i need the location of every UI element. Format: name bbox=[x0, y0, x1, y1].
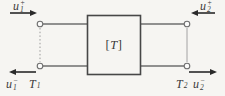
label-t2-base: T bbox=[176, 78, 183, 90]
label-t1: T 1 bbox=[29, 78, 40, 90]
label-u1-plus-base: u bbox=[13, 0, 19, 12]
arrow-reflected-port1-head bbox=[9, 69, 16, 75]
label-t2: T 2 bbox=[176, 78, 187, 90]
arrow-reflected-port2-head bbox=[210, 69, 217, 75]
network-box-label: [ T ] bbox=[87, 15, 141, 75]
label-t2-sub: 2 bbox=[184, 82, 188, 89]
label-u2-plus-sub: 2 bbox=[207, 6, 211, 13]
arrow-incident-port1-head bbox=[30, 10, 37, 16]
arrow-reflected-port1 bbox=[9, 69, 36, 75]
terminal-top-right bbox=[184, 21, 190, 27]
label-u1-plus-scripts: + 1 bbox=[20, 0, 25, 13]
label-u2-plus-scripts: + 2 bbox=[207, 0, 212, 13]
label-u2-minus-base: u bbox=[193, 78, 199, 90]
two-port-network-diagram: [ T ] u + 1 u + 2 u − 1 T 1 T 2 u bbox=[0, 0, 225, 96]
label-u2-minus-sub: 2 bbox=[200, 84, 204, 91]
terminal-top-left bbox=[37, 21, 43, 27]
label-u1-plus-sub: 1 bbox=[20, 6, 24, 13]
arrow-incident-port2-head bbox=[191, 10, 198, 16]
label-u1-minus-scripts: − 1 bbox=[13, 77, 18, 91]
label-t1-base: T bbox=[29, 78, 36, 90]
label-u2-plus: u + 2 bbox=[200, 0, 212, 14]
label-u1-plus: u + 1 bbox=[13, 0, 25, 14]
arrow-reflected-port2 bbox=[189, 69, 217, 75]
label-u2-minus-scripts: − 2 bbox=[200, 77, 205, 91]
bracket-right: ] bbox=[118, 38, 123, 53]
label-u1-minus: u − 1 bbox=[6, 78, 18, 92]
label-t1-sub: 1 bbox=[37, 82, 41, 89]
terminal-bottom-left bbox=[37, 63, 43, 69]
label-u2-minus: u − 2 bbox=[193, 78, 205, 92]
label-u1-minus-base: u bbox=[6, 78, 12, 90]
matrix-symbol: T bbox=[110, 38, 117, 53]
label-u2-plus-base: u bbox=[200, 0, 206, 12]
terminal-bottom-right bbox=[184, 63, 190, 69]
label-u1-minus-sub: 1 bbox=[13, 84, 17, 91]
